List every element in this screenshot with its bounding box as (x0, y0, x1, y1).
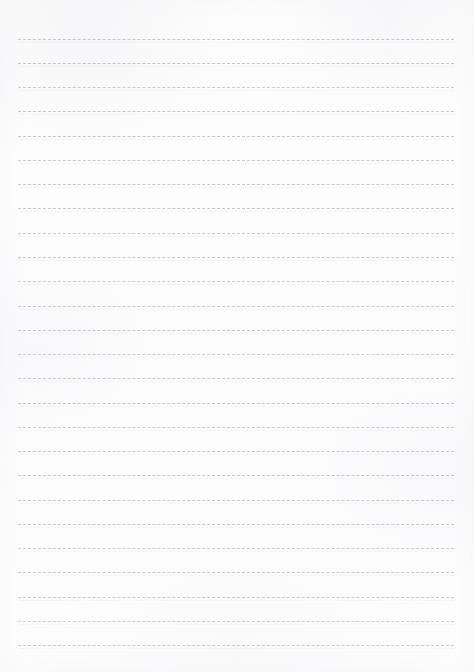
rule-line (18, 645, 454, 646)
writing-area[interactable] (18, 39, 454, 645)
notebook-page (0, 0, 474, 672)
